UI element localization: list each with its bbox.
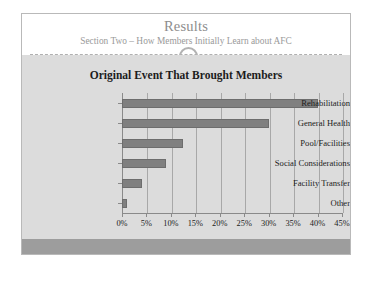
category-label: Pool/Facilities	[254, 138, 350, 148]
footer-bar	[22, 239, 350, 254]
category-label: Facility Transfer	[254, 178, 350, 188]
chart-title: Original Event That Brought Members	[22, 69, 350, 81]
x-axis-line	[122, 213, 343, 214]
category-label: Social Considerations	[254, 158, 350, 168]
page-title: Results	[22, 18, 350, 35]
x-axis-tick	[318, 213, 319, 217]
gridline	[172, 93, 173, 213]
slide-body: Original Event That Brought Members 0%5%…	[22, 55, 350, 254]
y-axis-tick	[118, 143, 122, 144]
y-axis-tick	[118, 183, 122, 184]
category-label: General Health	[254, 118, 350, 128]
bar	[122, 179, 142, 188]
plot-area	[122, 93, 342, 213]
bar	[122, 119, 269, 128]
gridline	[270, 93, 271, 213]
x-axis-tick	[269, 213, 270, 217]
category-label: Rehabilitation	[254, 98, 350, 108]
x-axis-tick	[293, 213, 294, 217]
gridline	[245, 93, 246, 213]
category-label: Other	[254, 198, 350, 208]
slide-subtitle: Section Two – How Members Initially Lear…	[22, 36, 350, 46]
gridline	[196, 93, 197, 213]
x-axis-tick-label: 45%	[322, 219, 351, 228]
bar	[122, 139, 183, 148]
gridline	[221, 93, 222, 213]
slide: Results Section Two – How Members Initia…	[21, 13, 351, 255]
bar-chart: Original Event That Brought Members 0%5%…	[22, 55, 350, 239]
bar	[122, 159, 166, 168]
gridline	[147, 93, 148, 213]
y-axis-tick	[118, 103, 122, 104]
x-axis-tick	[342, 213, 343, 217]
gridline	[319, 93, 320, 213]
gridline	[343, 93, 344, 213]
x-axis-tick	[220, 213, 221, 217]
x-axis-tick	[195, 213, 196, 217]
y-axis-tick	[118, 123, 122, 124]
x-axis-tick	[122, 213, 123, 217]
y-axis-tick	[118, 163, 122, 164]
bar	[122, 199, 127, 208]
y-axis-tick	[118, 203, 122, 204]
x-axis-tick	[244, 213, 245, 217]
gridline	[294, 93, 295, 213]
x-axis-tick	[146, 213, 147, 217]
x-axis-tick	[171, 213, 172, 217]
